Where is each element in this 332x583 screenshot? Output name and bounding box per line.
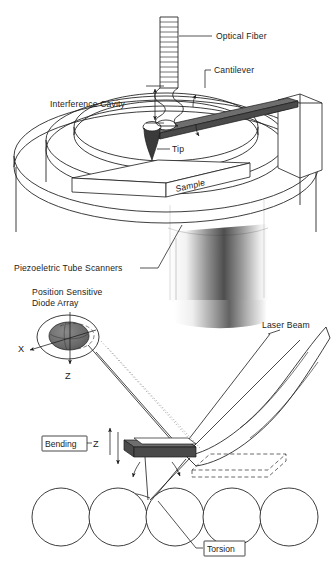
- laser-beam-leader: [268, 330, 280, 334]
- surface-atom: [260, 488, 318, 546]
- cantilever-beam-bottom: [124, 438, 196, 457]
- interference-cavity-dimension: [146, 86, 164, 123]
- position-sensitive-diode-array: [30, 312, 99, 364]
- detector-label-line2: Diode Array: [32, 298, 79, 308]
- laser-beam-label: Laser Beam: [262, 320, 310, 330]
- torsion-label-box: Torsion: [204, 541, 245, 556]
- afm-diagram-figure: Sample: [0, 0, 332, 583]
- surface-atom: [32, 488, 90, 546]
- bending-axis-z-label: Z: [93, 439, 99, 449]
- bending-label-box: Bending: [42, 436, 87, 451]
- surface-atom: [203, 488, 261, 546]
- optical-fiber-label: Optical Fiber: [216, 31, 267, 41]
- tip-label: Tip: [172, 144, 184, 154]
- piezo-scanners-label: Piezoeletric Tube Scanners: [14, 263, 123, 273]
- optical-fiber: [155, 17, 184, 126]
- surface-atom: [89, 488, 147, 546]
- bending-label: Bending: [45, 439, 77, 449]
- top-panel-group: Sample: [14, 17, 322, 328]
- detector-label-line1: Position Sensitive: [32, 287, 103, 297]
- interference-cavity-label: Interference Cavity: [50, 99, 126, 109]
- cantilever-leader: [205, 70, 211, 88]
- detector-axis-x-label: X: [18, 344, 24, 354]
- laser-beam-rays: [88, 334, 300, 452]
- bending-arrows: [110, 428, 118, 464]
- surface-atom: [146, 488, 204, 546]
- sample-slab: [72, 160, 250, 197]
- detector-axis-z-label: Z: [65, 371, 71, 381]
- laser-spot: [49, 322, 89, 350]
- probe-tip: [143, 122, 161, 161]
- torsion-label: Torsion: [207, 544, 235, 554]
- bottom-panel-group: Position Sensitive Diode Array X Z: [18, 287, 330, 556]
- undeflected-cantilever-dashed: [192, 454, 286, 477]
- bent-cantilever-plate: [186, 327, 330, 466]
- cantilever-label: Cantilever: [214, 65, 254, 75]
- afm-diagram-canvas: Sample: [0, 0, 332, 583]
- surface-atom-row: [32, 488, 318, 546]
